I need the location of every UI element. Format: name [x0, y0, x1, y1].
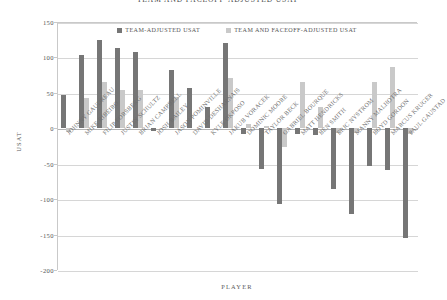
y-axis-tick-label: -100 — [8, 196, 54, 203]
legend-swatch-icon — [226, 28, 231, 33]
y-axis-tick-label: 100 — [8, 54, 54, 61]
y-axis-tick-label: 150 — [8, 19, 54, 26]
chart-legend: TEAM-ADJUSTED USATTEAM AND FACEOFF-ADJUS… — [57, 24, 417, 36]
y-axis-tick-label: -200 — [8, 267, 54, 274]
x-axis-title: PLAYER — [57, 283, 417, 290]
y-axis-ticks: 150100500-50-100-150-200 — [0, 22, 54, 270]
legend-swatch-icon — [117, 28, 122, 33]
legend-item[interactable]: TEAM-ADJUSTED USAT — [117, 27, 200, 33]
x-axis-labels: JOHNNY GAUDREAUMIKE RIBEIROFILIP FORSBER… — [57, 0, 417, 300]
legend-label: TEAM AND FACEOFF-ADJUSTED USAT — [234, 27, 357, 33]
legend-item[interactable]: TEAM AND FACEOFF-ADJUSTED USAT — [226, 27, 357, 33]
y-axis-tick-label: 0 — [8, 125, 54, 132]
legend-label: TEAM-ADJUSTED USAT — [125, 27, 200, 33]
y-axis-tick-label: 50 — [8, 89, 54, 96]
y-axis-tick-label: -50 — [8, 160, 54, 167]
y-axis-tick-label: -150 — [8, 231, 54, 238]
